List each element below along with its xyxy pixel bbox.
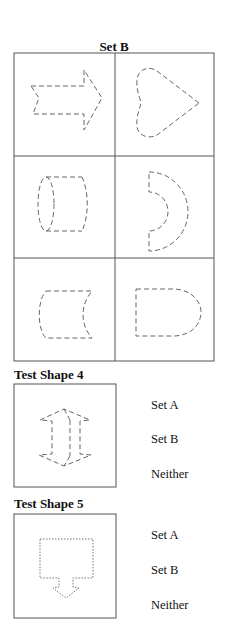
test-5-option-set-b[interactable]: Set B [151, 563, 178, 577]
right-arrow-shape [31, 70, 102, 130]
square-with-down-arrow-shape [40, 539, 93, 598]
test-shape-4-label: Test Shape 4 [14, 368, 84, 382]
concave-right-shape [39, 291, 92, 338]
cylinder-shape [38, 177, 87, 231]
test-4-option-set-a[interactable]: Set A [151, 398, 178, 412]
double-arrow-prism-shape [39, 409, 91, 466]
grid-lines [14, 53, 214, 361]
test-shape-5-label: Test Shape 5 [14, 497, 84, 511]
test-shape-4-box [14, 384, 116, 487]
test-4-option-neither[interactable]: Neither [151, 467, 188, 481]
d-shape [136, 289, 201, 336]
test-5-option-neither[interactable]: Neither [151, 598, 188, 612]
heart-shape [137, 68, 199, 136]
test-4-option-set-b[interactable]: Set B [151, 432, 178, 446]
test-5-option-set-a[interactable]: Set A [151, 528, 178, 542]
half-annulus-shape [149, 172, 188, 251]
set-grid [0, 0, 228, 639]
test-shape-5-box [14, 514, 116, 618]
